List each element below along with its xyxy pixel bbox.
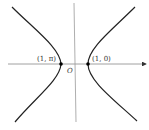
origin-label: O xyxy=(67,67,73,75)
right-vertex-point xyxy=(86,62,90,66)
hyperbola-diagram: (1, π) (1, 0) O xyxy=(0,0,149,130)
left-vertex-label: (1, π) xyxy=(37,55,56,63)
left-branch-curve xyxy=(12,7,61,122)
left-vertex-point xyxy=(59,62,63,66)
right-vertex-label: (1, 0) xyxy=(92,55,111,63)
vertical-axis xyxy=(74,3,76,122)
